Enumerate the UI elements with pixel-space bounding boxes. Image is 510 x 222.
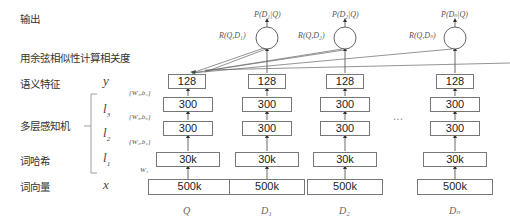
weight-w1: W₁ [140,166,148,174]
d2-layer-300-b: 300 [320,121,370,136]
weight-w2: {W₂,b₂} [129,138,151,146]
q-layer-300-a: 300 [163,97,213,112]
label-output: 输出 [20,11,40,26]
cosine-node-d2 [334,27,356,49]
col-label-d2: D₂ [339,205,350,216]
var-l3: l3 [103,101,110,119]
dn-layer-300-b: 300 [430,121,480,136]
var-l1: l1 [103,150,110,168]
q-layer-300-b: 300 [163,121,213,136]
var-x: x [103,177,109,193]
dn-layer-500k: 500k [417,179,493,195]
label-word-hashing: 词哈希 [20,153,50,168]
d1-layer-500k: 500k [229,179,305,195]
d1-layer-300-a: 300 [242,97,292,112]
col-label-q: Q [183,205,190,216]
col-label-d1: D₁ [261,205,272,216]
d2-layer-128: 128 [326,74,364,89]
q-layer-30k: 30k [156,152,220,167]
d1-layer-128: 128 [248,74,286,89]
d1-layer-30k: 30k [235,152,299,167]
label-word-vector: 词向量 [20,179,50,194]
posterior-dn: P(Dₙ|Q) [441,10,468,19]
d2-layer-30k: 30k [313,152,377,167]
posterior-d1: P(D₁|Q) [254,10,281,19]
cosine-node-dn [444,27,466,49]
dn-layer-30k: 30k [423,152,487,167]
weight-w3: {W₃,b₃} [129,113,151,121]
var-l2: l2 [103,125,110,143]
col-label-dn: Dₙ [449,205,460,216]
relevance-d1: R(Q,D₁) [219,31,246,40]
weight-w4: {W₄,b₄} [129,89,151,97]
q-layer-128: 128 [168,74,206,89]
d1-layer-300-b: 300 [242,121,292,136]
var-y: y [103,73,109,89]
dn-layer-300-a: 300 [430,97,480,112]
d2-layer-300-a: 300 [320,97,370,112]
cosine-node-d1 [256,27,278,49]
relevance-d2: R(Q,D₂) [298,31,325,40]
mlp-bracket [84,94,97,173]
label-mlp: 多层感知机 [20,118,70,133]
dn-layer-128: 128 [436,74,474,89]
ellipsis: ... [393,110,403,122]
posterior-d2: P(D₂|Q) [332,10,359,19]
label-cosine-similarity: 用余弦相似性计算相关度 [20,50,130,65]
label-semantic-feature: 语义特征 [20,76,60,91]
relevance-dn: R(Q,Dₙ) [409,31,436,40]
q-layer-500k: 500k [148,179,231,195]
d2-layer-500k: 500k [307,179,383,195]
